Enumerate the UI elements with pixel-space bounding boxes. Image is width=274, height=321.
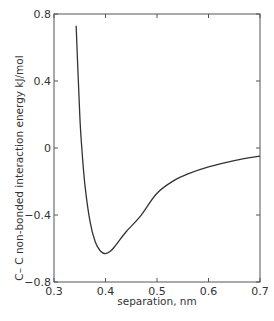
tick-labels: 0.30.40.50.60.70.80.40−0.4−0.8 (24, 8, 268, 298)
y-tick-label: −0.4 (24, 209, 51, 222)
x-tick-label: 0.7 (251, 285, 269, 298)
y-tick-label: −0.8 (24, 276, 51, 289)
y-tick-label: 0.8 (34, 8, 52, 21)
x-axis-label: separation, nm (117, 295, 196, 307)
y-axis-label: C– C non-bonded interaction energy kJ/mo… (13, 55, 25, 280)
x-tick-label: 0.4 (97, 285, 115, 298)
plot-frame (54, 14, 260, 282)
chart: 0.30.40.50.60.70.80.40−0.4−0.8 separatio… (0, 0, 274, 321)
y-tick-label: 0 (44, 142, 51, 155)
y-tick-label: 0.4 (34, 75, 52, 88)
x-tick-label: 0.6 (200, 285, 218, 298)
axis-ticks (54, 14, 260, 282)
energy-curve (76, 26, 260, 254)
